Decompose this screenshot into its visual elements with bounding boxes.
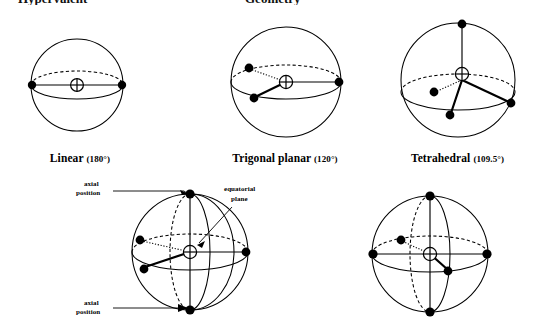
leader-equatorial <box>199 207 232 243</box>
atom-back-left <box>245 64 254 73</box>
bond-right <box>462 80 509 102</box>
figure-linear <box>24 32 134 142</box>
bond-front-bottom <box>451 80 462 113</box>
label-axial-bottom-line2: position <box>76 308 100 316</box>
figure-octahedral <box>360 186 500 326</box>
label-equatorial-line1: equatorial <box>224 185 255 193</box>
atom-left <box>368 249 377 258</box>
atom-right <box>118 81 126 89</box>
atom-left <box>28 81 36 89</box>
caption-tetrahedral-name: Tetrahedral <box>411 152 470 164</box>
caption-trigonal-planar: Trigonal planar (120°) <box>185 152 385 164</box>
atom-right <box>242 248 251 257</box>
label-axial-top-line2: position <box>76 189 100 197</box>
octahedral-sphere-diagram <box>360 186 500 326</box>
atom-back-left <box>430 88 439 97</box>
label-axial-bottom-line1: axial <box>84 299 99 307</box>
figure-tetrahedral <box>396 14 526 146</box>
linear-sphere-diagram <box>24 32 134 142</box>
clipped-heading: Hypervalent Geometry <box>0 0 544 5</box>
atom-right <box>507 99 516 108</box>
label-equatorial-line2: plane <box>231 195 248 203</box>
bond-back-left <box>142 241 190 252</box>
trigonal-bipyramidal-sphere-diagram: axial position equatorial plane axial po… <box>72 181 277 326</box>
vsepr-geometry-figure-sheet: Hypervalent Geometry Linear (180°) <box>0 0 544 328</box>
caption-trigonal-planar-name: Trigonal planar <box>232 152 311 164</box>
leader-axial-top <box>113 191 188 194</box>
atom-front-left <box>140 265 149 274</box>
atom-right <box>482 249 491 258</box>
label-axial-top-line1: axial <box>84 180 99 188</box>
caption-tetrahedral-angle: (109.5°) <box>473 154 504 164</box>
caption-linear: Linear (180°) <box>10 152 150 164</box>
atom-front-left <box>250 94 259 103</box>
atom-back-left <box>136 236 145 245</box>
atom-front-right <box>444 267 453 276</box>
atom-front-bottom <box>446 111 455 120</box>
heading-fragment-left: Hypervalent <box>18 0 87 5</box>
atom-right <box>335 78 344 87</box>
caption-linear-angle: (180°) <box>86 154 110 164</box>
caption-tetrahedral: Tetrahedral (109.5°) <box>370 152 544 164</box>
atom-back-left <box>397 236 406 245</box>
figure-trigonal-bipyramidal: axial position equatorial plane axial po… <box>72 181 277 326</box>
atom-top <box>425 191 434 200</box>
sphere-outline <box>401 23 515 137</box>
leader-equatorial-arrowhead <box>197 241 205 248</box>
caption-linear-name: Linear <box>50 152 84 164</box>
caption-trigonal-planar-angle: (120°) <box>314 154 338 164</box>
heading-fragment-right: Geometry <box>245 0 301 5</box>
figure-trigonal-planar <box>229 22 349 147</box>
atom-top <box>458 20 467 29</box>
atom-bottom <box>425 307 434 316</box>
tetrahedral-sphere-diagram <box>396 14 526 146</box>
trigonal-planar-sphere-diagram <box>229 22 349 147</box>
atom-axial-bottom <box>185 305 194 314</box>
